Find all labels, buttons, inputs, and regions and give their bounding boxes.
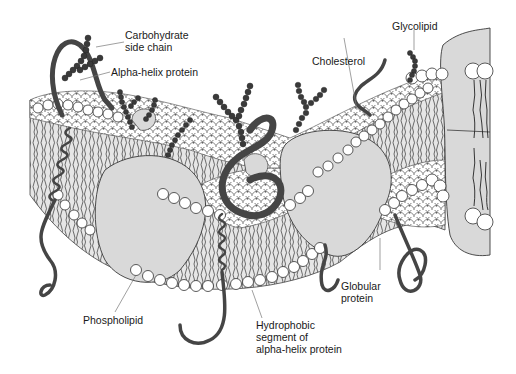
label-globular-protein: Globular protein [341,280,381,304]
label-alpha-helix-protein: Alpha-helix protein [111,66,198,78]
label-carbohydrate-side-chain: Carbohydrate side chain [125,29,189,53]
label-glycolipid: Glycolipid [392,20,438,32]
cell-membrane-diagram [0,0,516,374]
label-cholesterol: Cholesterol [312,55,365,67]
label-phospholipid: Phospholipid [83,314,143,326]
label-hydrophobic-segment: Hydrophobic segment of alpha-helix prote… [256,319,342,355]
